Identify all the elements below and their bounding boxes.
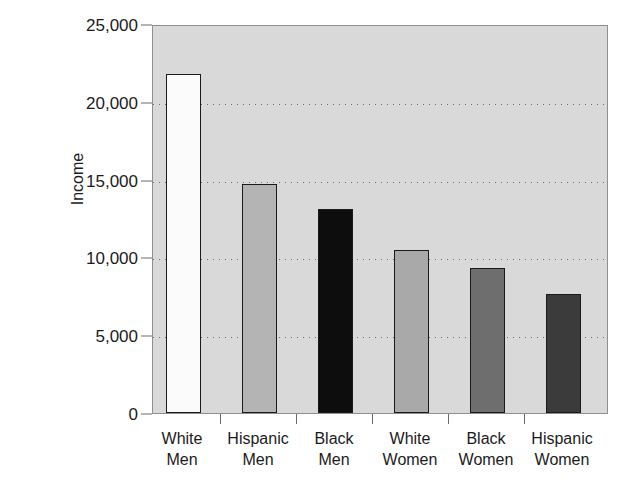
x-axis-category-label: BlackWomen <box>459 428 514 470</box>
x-axis-category-label-line2: Women <box>383 449 438 470</box>
x-axis-category-label-line1: Hispanic <box>227 430 288 447</box>
x-axis-category-label-line2: Women <box>531 449 592 470</box>
y-axis-tick-label: 0 <box>40 406 138 423</box>
plot-inner <box>153 26 607 413</box>
x-axis-category-label-line1: Black <box>314 430 353 447</box>
x-axis-tick-mark <box>372 414 373 424</box>
bar <box>546 294 581 413</box>
y-axis-tick-label: 25,000 <box>40 17 138 34</box>
x-axis-category-labels: WhiteMenHispanicMenBlackMenWhiteWomenBla… <box>152 428 608 490</box>
x-axis-tick-mark <box>524 414 525 424</box>
gridline <box>153 104 607 105</box>
y-axis-tick-label: 5,000 <box>40 328 138 345</box>
y-axis-tick-label: 15,000 <box>40 172 138 189</box>
x-axis-tick-mark <box>220 414 221 424</box>
gridline <box>153 259 607 260</box>
x-axis-category-label: WhiteWomen <box>383 428 438 470</box>
y-axis-tick-labels: 05,00010,00015,00020,00025,000 <box>40 0 138 497</box>
y-axis-tick-mark <box>141 336 152 337</box>
x-axis-category-label-line2: Women <box>459 449 514 470</box>
bar <box>318 209 353 413</box>
x-axis-tick-mark <box>448 414 449 424</box>
bar <box>394 250 429 413</box>
y-axis-tick-mark <box>141 258 152 259</box>
x-axis-category-label-line1: Black <box>466 430 505 447</box>
income-bar-chart: Income 05,00010,00015,00020,00025,000 Wh… <box>0 0 630 497</box>
y-axis-tick-label: 10,000 <box>40 250 138 267</box>
y-axis-tick-mark <box>141 414 152 415</box>
y-axis-tick-mark <box>141 25 152 26</box>
bar <box>166 74 201 413</box>
y-axis-tick-mark <box>141 180 152 181</box>
x-axis-category-label: HispanicMen <box>227 428 288 470</box>
x-axis-tick-mark <box>296 414 297 424</box>
x-axis-category-label-line1: White <box>162 430 203 447</box>
x-axis-category-label-line2: Men <box>162 449 203 470</box>
bar <box>470 268 505 413</box>
x-axis-category-label-line2: Men <box>314 449 353 470</box>
bar <box>242 184 277 413</box>
x-axis-category-label-line2: Men <box>227 449 288 470</box>
y-axis-tick-label: 20,000 <box>40 94 138 111</box>
x-axis-category-label-line1: Hispanic <box>531 430 592 447</box>
x-axis-category-label: WhiteMen <box>162 428 203 470</box>
x-axis-category-label: BlackMen <box>314 428 353 470</box>
x-axis-category-label: HispanicWomen <box>531 428 592 470</box>
gridline <box>153 182 607 183</box>
plot-area <box>152 25 608 414</box>
y-axis-tick-mark <box>141 102 152 103</box>
x-axis-category-label-line1: White <box>390 430 431 447</box>
gridline <box>153 337 607 338</box>
